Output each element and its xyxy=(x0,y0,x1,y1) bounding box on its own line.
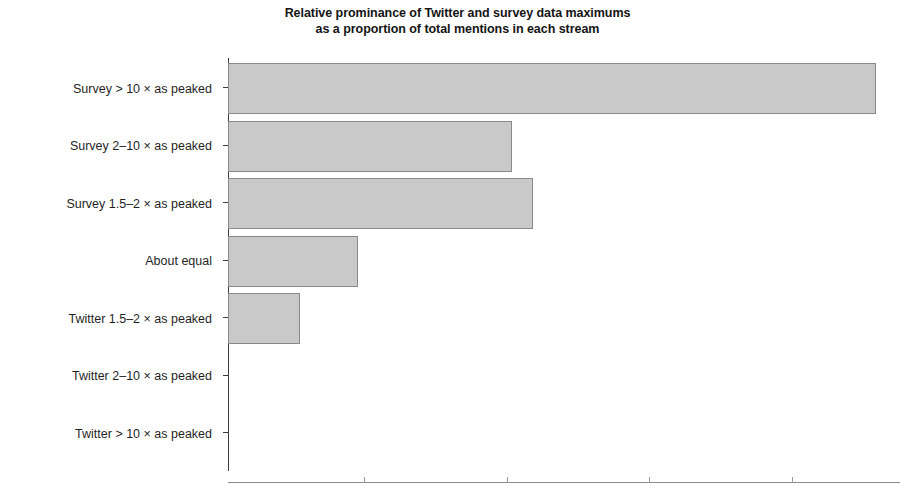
x-tick-0 xyxy=(364,477,365,483)
bar-row: Twitter 2–10 × as peaked xyxy=(0,348,915,406)
y-axis-label-5: Twitter 2–10 × as peaked xyxy=(0,348,212,406)
chart-figure: Relative prominance of Twitter and surve… xyxy=(0,0,915,488)
x-tick-2 xyxy=(649,477,650,483)
bar-row: Survey 2–10 × as peaked xyxy=(0,118,915,176)
x-tick-1 xyxy=(507,477,508,483)
y-tick-6 xyxy=(223,432,228,433)
bar-4 xyxy=(228,293,300,344)
y-axis-label-6: Twitter > 10 × as peaked xyxy=(0,405,212,463)
bar-row: About equal xyxy=(0,233,915,291)
bar-row: Survey > 10 × as peaked xyxy=(0,60,915,118)
bar-1 xyxy=(228,121,512,172)
y-axis-label-0: Survey > 10 × as peaked xyxy=(0,60,212,118)
y-axis-label-4: Twitter 1.5–2 × as peaked xyxy=(0,290,212,348)
bar-row: Twitter 1.5–2 × as peaked xyxy=(0,290,915,348)
bar-row: Survey 1.5–2 × as peaked xyxy=(0,175,915,233)
y-axis-label-2: Survey 1.5–2 × as peaked xyxy=(0,175,212,233)
y-tick-5 xyxy=(223,375,228,376)
x-axis-line xyxy=(228,482,900,483)
plot-area: Survey > 10 × as peaked Survey 2–10 × as… xyxy=(0,0,915,488)
bar-row: Twitter > 10 × as peaked xyxy=(0,405,915,463)
y-axis-label-3: About equal xyxy=(0,233,212,291)
x-tick-3 xyxy=(792,477,793,483)
y-axis-label-1: Survey 2–10 × as peaked xyxy=(0,118,212,176)
bar-3 xyxy=(228,236,358,287)
bar-2 xyxy=(228,178,533,229)
bar-0 xyxy=(228,63,876,114)
